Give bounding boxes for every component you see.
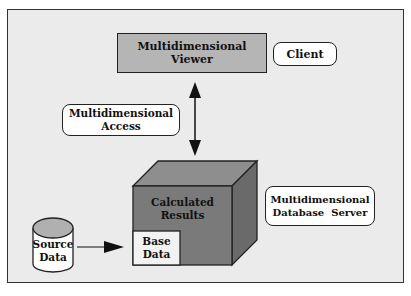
base-label-line2: Data <box>133 248 180 261</box>
cube-label-line2: Results <box>133 209 232 222</box>
bidirectional-arrow-icon <box>189 82 201 156</box>
access-label-line1: Multidimensional <box>69 107 173 120</box>
base-label-line1: Base <box>133 235 180 248</box>
multidimensional-viewer-box: MultidimensionalViewer <box>117 33 267 73</box>
source-label-line1: Source <box>30 238 76 251</box>
database-server-box: MultidimensionalDatabase Server <box>265 186 375 226</box>
server-label-line1: Multidimensional <box>270 193 369 206</box>
client-label: Client <box>286 48 323 61</box>
multidimensional-access-box: MultidimensionalAccess <box>62 104 180 136</box>
source-label-line2: Data <box>30 251 76 264</box>
calculated-results-label: CalculatedResults <box>133 196 232 222</box>
server-label-line2: Database Server <box>270 206 369 219</box>
right-arrow-icon <box>77 241 124 253</box>
base-data-label: BaseData <box>133 235 180 261</box>
source-data-label: SourceData <box>30 238 76 264</box>
client-label-box: Client <box>273 42 337 66</box>
cube-label-line1: Calculated <box>133 196 232 209</box>
viewer-label-line1: Multidimensional <box>137 40 246 53</box>
access-label-line2: Access <box>69 120 173 133</box>
viewer-label-line2: Viewer <box>137 53 246 66</box>
